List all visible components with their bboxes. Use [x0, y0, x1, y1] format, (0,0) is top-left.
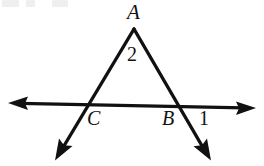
horizontal-transversal-line [8, 97, 256, 116]
right-side-ray-AB [134, 29, 211, 161]
vertex-label-a: A [127, 2, 140, 23]
left-side-ray-AC [55, 29, 134, 161]
horizontal-line-left-arrowhead [8, 97, 28, 111]
angle-label-1: 1 [199, 108, 209, 128]
diagram-canvas [0, 0, 264, 166]
angle-label-2: 2 [127, 44, 137, 64]
left-ray-arrowhead [55, 139, 73, 161]
horizontal-line-segment [20, 103, 244, 108]
vertex-label-c: C [87, 108, 100, 128]
right-ray-arrowhead [194, 139, 212, 161]
geometry-figure: A 2 C B 1 [0, 0, 264, 166]
horizontal-line-right-arrowhead [236, 102, 256, 116]
vertex-label-b: B [162, 108, 174, 128]
